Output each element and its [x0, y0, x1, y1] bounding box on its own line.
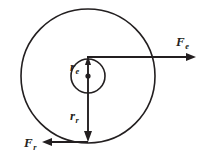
label-force-r-sub: r: [33, 142, 36, 152]
label-force-e: Fe: [176, 33, 188, 49]
radius-r-arrowhead-icon: [84, 131, 92, 142]
label-force-r: Fr: [24, 134, 36, 150]
label-inner-radius-sub: e: [76, 66, 80, 76]
physics-vector-diagram: re rr Fe Fr: [0, 0, 207, 163]
force-e-arrowhead-icon: [186, 53, 196, 61]
label-outer-radius-base: r: [70, 108, 75, 123]
label-outer-radius-sub: r: [76, 115, 79, 125]
force-r-arrowhead-icon: [42, 138, 52, 146]
label-outer-radius: rr: [70, 107, 78, 123]
label-inner-radius-base: r: [70, 59, 75, 74]
label-force-e-sub: e: [185, 41, 189, 51]
label-force-r-base: F: [24, 135, 33, 150]
label-inner-radius: re: [70, 58, 79, 74]
center-point-marker: [85, 73, 90, 78]
label-force-e-base: F: [176, 34, 185, 49]
